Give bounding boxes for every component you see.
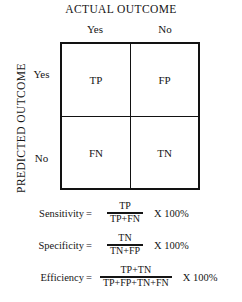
formula-sensitivity: Sensitivity = TP TP+FN X 100% (0, 196, 242, 230)
cell-true-positive: TP (62, 44, 130, 116)
formula-equals-sign: = (86, 272, 92, 283)
fraction-numerator: TP (114, 201, 136, 212)
cell-false-negative: FN (62, 116, 130, 188)
confusion-matrix-table: TP FP FN TN (60, 42, 200, 190)
fraction-denominator: TP+FN (107, 214, 143, 225)
formula-efficiency: Efficiency = TP+TN TP+FP+TN+FN X 100% (0, 260, 242, 294)
formula-name: Sensitivity (0, 208, 84, 219)
cell-false-positive: FP (130, 44, 198, 116)
formula-multiplier: X 100% (154, 208, 189, 219)
row-header-no: No (26, 152, 57, 164)
figure-title: ACTUAL OUTCOME (0, 3, 242, 15)
cell-true-negative: TN (130, 116, 198, 188)
formula-name: Specificity (0, 240, 84, 251)
formula-specificity: Specificity = TN TN+FP X 100% (0, 228, 242, 262)
formula-multiplier: X 100% (154, 240, 189, 251)
formula-equals-sign: = (86, 240, 92, 251)
confusion-matrix-figure: ACTUAL OUTCOME Yes No PREDICTED OUTCOME … (0, 0, 242, 302)
column-header-yes: Yes (60, 23, 130, 35)
formula-fraction: TP+TN TP+FP+TN+FN (98, 265, 174, 289)
formula-equals-sign: = (86, 208, 92, 219)
formula-fraction: TP TP+FN (105, 201, 145, 225)
formula-name: Efficiency (0, 272, 84, 283)
column-header-no: No (130, 23, 200, 35)
formula-fraction: TN TN+FP (105, 233, 145, 257)
fraction-denominator: TP+FP+TN+FN (100, 278, 172, 289)
formula-multiplier: X 100% (183, 272, 218, 283)
fraction-numerator: TN (113, 233, 136, 244)
fraction-denominator: TN+FP (107, 246, 143, 257)
fraction-numerator: TP+TN (116, 265, 157, 276)
row-header-yes: Yes (26, 68, 57, 80)
